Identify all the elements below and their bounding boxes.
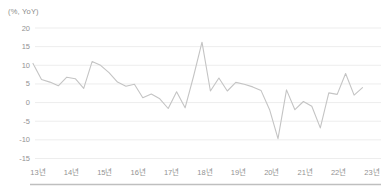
y-tick-label: -15 [19, 154, 30, 163]
x-tick-label: 21년 [298, 167, 313, 177]
x-tick-label: 19년 [231, 167, 246, 177]
line-chart: (%, YoY) 20151050-5-10-1513년14년15년16년17년… [0, 0, 392, 195]
data-line [33, 42, 363, 139]
x-tick-label: 20년 [264, 167, 279, 177]
chart-canvas: 20151050-5-10-1513년14년15년16년17년18년19년20년… [0, 0, 392, 195]
y-tick-label: 5 [26, 79, 30, 88]
x-tick-label: 18년 [197, 167, 212, 177]
x-tick-label: 15년 [97, 167, 112, 177]
y-tick-label: -5 [23, 117, 30, 126]
y-tick-label: 10 [22, 61, 30, 70]
x-tick-label: 17년 [164, 167, 179, 177]
y-tick-label: -10 [19, 135, 30, 144]
x-tick-label: 13년 [30, 167, 45, 177]
x-tick-label: 14년 [64, 167, 79, 177]
x-tick-label: 16년 [131, 167, 146, 177]
x-tick-label: 23년 [364, 167, 379, 177]
x-tick-label: 22년 [331, 167, 346, 177]
y-tick-label: 0 [26, 98, 30, 107]
y-tick-label: 20 [22, 24, 30, 33]
y-tick-label: 15 [22, 42, 30, 51]
